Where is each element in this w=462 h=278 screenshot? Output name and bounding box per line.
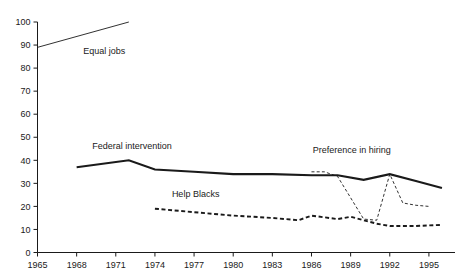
y-tick-label: 40 <box>20 156 30 166</box>
series-line-federal-intervention <box>77 160 442 188</box>
series-line-help-blacks <box>155 209 442 226</box>
series-label-preference-in-hiring: Preference in hiring <box>313 145 391 155</box>
x-tick-label: 1989 <box>341 260 361 270</box>
y-tick-label: 60 <box>20 109 30 119</box>
x-tick-label: 1980 <box>223 260 243 270</box>
x-tick-label: 1971 <box>106 260 126 270</box>
series-line-equal-jobs <box>38 22 129 47</box>
chart-canvas: 0102030405060708090100 19651968197119741… <box>0 0 462 278</box>
series-label-equal-jobs: Equal jobs <box>83 46 126 56</box>
y-tick-label: 100 <box>15 17 30 27</box>
y-tick-label: 0 <box>25 248 30 258</box>
x-tick-label: 1974 <box>145 260 165 270</box>
y-tick-label: 80 <box>20 63 30 73</box>
x-axis-tick-marks <box>38 253 429 257</box>
x-tick-label: 1965 <box>27 260 47 270</box>
y-tick-label: 70 <box>20 86 30 96</box>
series-label-help-blacks: Help Blacks <box>172 189 220 199</box>
y-tick-label: 90 <box>20 40 30 50</box>
y-axis-tick-marks <box>34 22 38 253</box>
y-tick-label: 20 <box>20 202 30 212</box>
y-tick-label: 30 <box>20 179 30 189</box>
series-label-federal-intervention: Federal intervention <box>92 141 172 151</box>
x-tick-label: 1995 <box>419 260 439 270</box>
x-axis-tick-labels: 1965196819711974197719801983198619891992… <box>27 260 438 270</box>
line-chart: 0102030405060708090100 19651968197119741… <box>0 0 462 278</box>
x-tick-label: 1992 <box>380 260 400 270</box>
y-axis-tick-labels: 0102030405060708090100 <box>15 17 30 258</box>
y-tick-label: 50 <box>20 132 30 142</box>
x-tick-label: 1977 <box>184 260 204 270</box>
y-tick-label: 10 <box>20 225 30 235</box>
x-tick-label: 1986 <box>301 260 321 270</box>
x-tick-label: 1983 <box>262 260 282 270</box>
x-tick-label: 1968 <box>67 260 87 270</box>
